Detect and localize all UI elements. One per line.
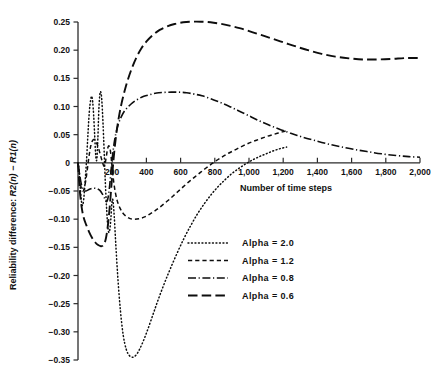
legend-label: Alpha = 0.8 xyxy=(242,273,294,283)
legend-label: Alpha = 2.0 xyxy=(242,238,294,248)
x-tick-label: 400 xyxy=(139,167,153,177)
series-line-dotted xyxy=(78,91,287,357)
legend: Alpha = 2.0Alpha = 1.2Alpha = 0.8Alpha =… xyxy=(188,238,294,301)
y-tick-label: −0.05 xyxy=(48,186,70,196)
x-axis-title: Number of time steps xyxy=(240,183,332,193)
y-tick-label: 0.20 xyxy=(53,45,70,55)
series-line-long-dash xyxy=(78,22,420,247)
x-axis-tick-labels: 2004006008001,0001,2001,4001,6001,8002,0… xyxy=(105,167,431,177)
y-tick-label: 0 xyxy=(65,158,70,168)
svg-text:Reliability difference: R2(n): Reliability difference: R2(n) − R1(n) xyxy=(8,140,18,290)
x-tick-label: 1,800 xyxy=(375,167,397,177)
y-tick-label: −0.10 xyxy=(48,214,70,224)
y-tick-label: −0.20 xyxy=(48,271,70,281)
x-tick-label: 600 xyxy=(174,167,188,177)
x-tick-label: 1,200 xyxy=(273,167,295,177)
legend-label: Alpha = 1.2 xyxy=(242,256,294,266)
y-tick-label: −0.15 xyxy=(48,242,70,252)
y-axis-title: Reliability difference: R2(n) − R1(n) xyxy=(8,140,18,290)
x-tick-label: 1,600 xyxy=(341,167,363,177)
y-tick-label: −0.30 xyxy=(48,327,70,337)
x-tick-label: 800 xyxy=(208,167,222,177)
figure-container: 0.250.200.150.100.050−0.05−0.10−0.15−0.2… xyxy=(0,0,432,391)
x-tick-label: 1,400 xyxy=(307,167,329,177)
x-tick-label: 2,000 xyxy=(409,167,431,177)
legend-label: Alpha = 0.6 xyxy=(242,291,294,301)
y-tick-label: 0.10 xyxy=(53,102,70,112)
y-tick-label: −0.25 xyxy=(48,299,70,309)
x-tick-label: 1,000 xyxy=(238,167,260,177)
y-tick-label: 0.05 xyxy=(53,130,70,140)
y-tick-label: 0.15 xyxy=(53,73,70,83)
reliability-difference-chart: 0.250.200.150.100.050−0.05−0.10−0.15−0.2… xyxy=(0,0,432,391)
y-tick-label: 0.25 xyxy=(53,17,70,27)
y-tick-label: −0.35 xyxy=(48,355,70,365)
y-axis-tick-labels: 0.250.200.150.100.050−0.05−0.10−0.15−0.2… xyxy=(48,17,70,365)
